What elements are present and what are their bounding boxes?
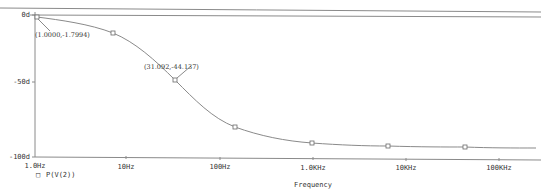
data-marker xyxy=(463,145,467,149)
data-marker xyxy=(35,15,39,19)
legend-marker-icon: □ xyxy=(36,171,41,179)
annotation-1: (1.0000,-1.7994) xyxy=(35,31,90,39)
data-marker xyxy=(310,141,314,145)
x-axis xyxy=(35,157,541,160)
x-axis-title: Frequency xyxy=(294,181,332,189)
y-tick-label-minus50: -50d xyxy=(13,78,30,86)
x-tick-label-100khz: 100KHz xyxy=(486,164,511,172)
x-tick-label-1hz: 1.0Hz xyxy=(24,162,45,170)
y-tick-label-minus100: -100d xyxy=(9,153,30,161)
data-marker xyxy=(233,125,237,129)
x-tick-label-10hz: 10Hz xyxy=(118,163,135,171)
data-marker xyxy=(173,78,177,82)
annotation-2: (31.092,-44.137) xyxy=(144,63,199,71)
x-tick-label-100hz: 100Hz xyxy=(209,163,230,171)
annotation-leader-1 xyxy=(38,19,50,31)
zero-reference-line xyxy=(30,15,541,17)
y-tick-label-0: 0d xyxy=(22,11,30,19)
bode-phase-plot: 0d -50d -100d 1.0Hz 10Hz 100Hz 1.0KHz 10… xyxy=(0,0,549,195)
top-frame-line xyxy=(0,8,541,12)
phase-trace xyxy=(37,17,536,148)
legend-label: P(V(2)) xyxy=(46,171,76,179)
x-tick-label-1khz: 1.0KHz xyxy=(300,164,325,172)
data-marker xyxy=(386,144,390,148)
x-tick-label-10khz: 10KHz xyxy=(395,164,416,172)
data-marker xyxy=(111,31,115,35)
